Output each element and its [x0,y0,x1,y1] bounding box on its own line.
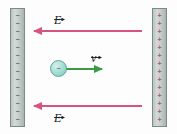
plate-charge-symbol: − [15,85,19,90]
label-velocity: v [91,52,96,64]
vector-arrow-overbar-icon [54,11,63,16]
plate-charge-symbol: − [15,69,19,74]
plate-charge-symbol: − [15,109,19,114]
plate-charge-symbol: + [157,13,161,18]
plate-charge-symbol: − [15,21,19,26]
arrow-head-left-icon [33,27,42,35]
label-electric-field-top: E [54,14,61,26]
plate-charge-symbol: − [15,29,19,34]
electric-field-arrow-bottom [34,105,142,107]
plate-charge-symbol: − [15,77,19,82]
negative-plate: − − − − − − − − − − − − − − [10,8,25,127]
plate-charge-symbol: + [157,21,161,26]
plate-charge-symbol: − [15,93,19,98]
arrow-shaft [34,30,142,32]
plate-charge-symbol: + [157,45,161,50]
physics-diagram-canvas: − − − − − − − − − − − − − − + + + + + + … [0,0,177,134]
vector-arrow-overbar-icon [54,109,63,114]
arrow-head-right-icon [94,65,103,73]
arrow-shaft [34,105,142,107]
particle-charge-symbol: − [56,65,60,72]
plate-charge-symbol: + [157,61,161,66]
plate-charge-symbol: + [157,117,161,122]
plate-charge-symbol: + [157,101,161,106]
plate-charge-symbol: − [15,101,19,106]
positive-plate: + + + + + + + + + + + + + + [152,8,167,127]
plate-charge-symbol: + [157,69,161,74]
plate-charge-symbol: − [15,53,19,58]
plate-charge-symbol: + [157,85,161,90]
velocity-arrow [62,68,102,70]
plate-charge-symbol: − [15,37,19,42]
plate-charge-symbol: + [157,77,161,82]
plate-charge-symbol: − [15,13,19,18]
plate-charge-symbol: + [157,53,161,58]
plate-charge-symbol: − [15,117,19,122]
vector-arrow-overbar-icon [91,49,100,54]
plate-charge-symbol: + [157,109,161,114]
plate-charge-symbol: − [15,45,19,50]
plate-charge-symbol: + [157,93,161,98]
plate-charge-symbol: − [15,61,19,66]
charged-particle: − [50,60,67,77]
label-electric-field-bottom: E [54,112,61,124]
plate-charge-symbol: + [157,37,161,42]
plate-charge-symbol: + [157,29,161,34]
electric-field-arrow-top [34,30,142,32]
arrow-head-left-icon [33,102,42,110]
